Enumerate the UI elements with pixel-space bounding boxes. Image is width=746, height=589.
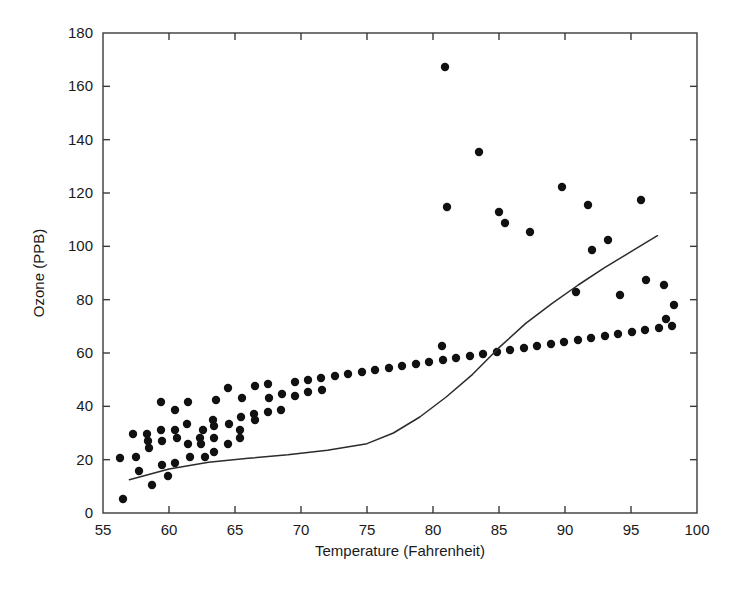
data-point	[641, 326, 649, 334]
data-point	[438, 342, 446, 350]
data-point	[183, 420, 191, 428]
y-axis-title: Ozone (PPB)	[30, 229, 47, 317]
data-point	[265, 394, 273, 402]
data-point	[116, 454, 124, 462]
data-point	[250, 410, 258, 418]
data-point	[441, 63, 449, 71]
data-point	[158, 461, 166, 469]
data-point	[212, 396, 220, 404]
data-point	[398, 362, 406, 370]
plot-canvas: 556065707580859095100 020406080100120140…	[0, 0, 746, 589]
y-tick-label: 80	[76, 291, 93, 308]
data-point	[412, 360, 420, 368]
data-point	[237, 413, 245, 421]
data-point	[616, 291, 624, 299]
data-point	[584, 201, 592, 209]
data-point	[171, 426, 179, 434]
data-point	[129, 430, 137, 438]
x-axis-title: Temperature (Fahrenheit)	[315, 542, 485, 559]
data-point	[587, 334, 595, 342]
data-point	[574, 336, 582, 344]
data-point	[642, 276, 650, 284]
x-tick-label: 55	[95, 521, 112, 538]
data-point	[201, 453, 209, 461]
data-point	[439, 356, 447, 364]
data-point	[501, 219, 509, 227]
y-tick-label: 100	[68, 237, 93, 254]
data-point	[291, 392, 299, 400]
data-point	[209, 416, 217, 424]
data-point	[157, 398, 165, 406]
data-point	[560, 338, 568, 346]
data-point	[164, 472, 172, 480]
data-point	[662, 315, 670, 323]
data-point	[157, 426, 165, 434]
data-point	[304, 376, 312, 384]
data-point	[520, 344, 528, 352]
data-point	[318, 386, 326, 394]
data-point	[304, 388, 312, 396]
x-tick-label: 95	[623, 521, 640, 538]
data-point	[670, 301, 678, 309]
data-point	[533, 342, 541, 350]
y-tick-label: 120	[68, 184, 93, 201]
data-point	[196, 434, 204, 442]
data-point	[655, 324, 663, 332]
data-point	[614, 330, 622, 338]
data-point	[425, 358, 433, 366]
y-tick-label: 20	[76, 451, 93, 468]
x-tick-label: 80	[425, 521, 442, 538]
data-point	[171, 459, 179, 467]
data-point	[173, 434, 181, 442]
x-tick-label: 60	[161, 521, 178, 538]
x-tick-label: 75	[359, 521, 376, 538]
data-point	[331, 372, 339, 380]
data-point	[344, 370, 352, 378]
data-point	[132, 453, 140, 461]
data-point	[251, 382, 259, 390]
data-point	[385, 364, 393, 372]
data-point	[475, 148, 483, 156]
data-point	[225, 420, 233, 428]
data-point	[526, 228, 534, 236]
data-point	[660, 281, 668, 289]
data-point	[466, 352, 474, 360]
data-point	[264, 408, 272, 416]
data-point	[547, 340, 555, 348]
data-point	[277, 406, 285, 414]
x-tick-label: 70	[293, 521, 310, 538]
data-point	[291, 378, 299, 386]
data-point	[236, 426, 244, 434]
x-tick-label: 90	[557, 521, 574, 538]
data-point	[506, 346, 514, 354]
data-point	[604, 236, 612, 244]
data-point	[236, 434, 244, 442]
data-point	[199, 426, 207, 434]
data-point	[119, 495, 127, 503]
data-point	[148, 481, 156, 489]
data-point	[443, 203, 451, 211]
data-point	[452, 354, 460, 362]
data-point	[238, 394, 246, 402]
y-tick-label: 60	[76, 344, 93, 361]
data-point	[224, 440, 232, 448]
data-point	[358, 368, 366, 376]
data-point	[668, 322, 676, 330]
x-tick-label: 85	[491, 521, 508, 538]
y-tick-label: 160	[68, 77, 93, 94]
y-tick-label: 180	[68, 24, 93, 41]
data-point	[143, 430, 151, 438]
data-point	[278, 390, 286, 398]
data-point	[184, 440, 192, 448]
data-point	[588, 246, 596, 254]
data-point	[210, 448, 218, 456]
data-point	[224, 384, 232, 392]
x-tick-label: 65	[227, 521, 244, 538]
data-point	[479, 350, 487, 358]
data-point	[135, 467, 143, 475]
data-point	[601, 332, 609, 340]
data-point	[184, 398, 192, 406]
data-point	[186, 453, 194, 461]
data-point	[637, 196, 645, 204]
data-point	[264, 380, 272, 388]
